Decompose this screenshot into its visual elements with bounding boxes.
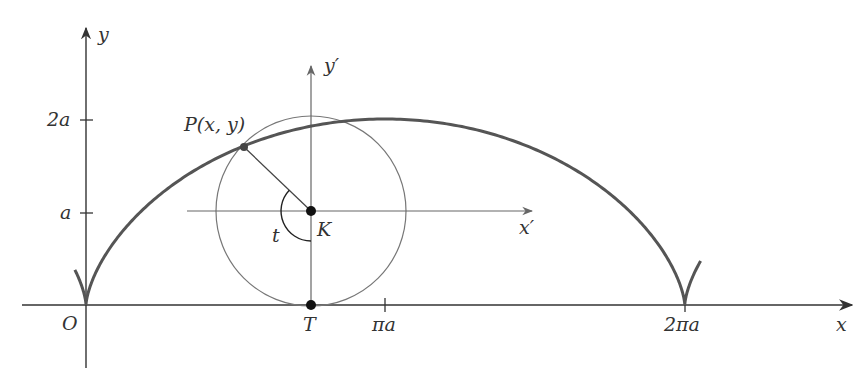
x-tick-label-2pia: 2πa bbox=[663, 313, 700, 335]
point-p bbox=[240, 143, 248, 151]
cycloid-curve bbox=[75, 119, 701, 305]
point-p-label: P(x, y) bbox=[183, 113, 245, 135]
angle-arc-t bbox=[281, 190, 311, 241]
radius-kp bbox=[244, 147, 311, 211]
y-axis-label: y bbox=[97, 23, 109, 45]
point-k bbox=[306, 206, 316, 216]
point-k-label: K bbox=[316, 218, 333, 240]
point-t-label: T bbox=[303, 313, 317, 335]
cycloid-diagram: y x O a 2a πa 2πa y′ x′ P(x, y) K T t bbox=[0, 0, 863, 376]
y-tick-label-a: a bbox=[60, 201, 71, 223]
local-y-label: y′ bbox=[323, 54, 340, 76]
x-axis-label: x bbox=[836, 313, 847, 335]
angle-label: t bbox=[272, 224, 280, 246]
origin-label: O bbox=[62, 312, 78, 334]
x-tick-label-pia: πa bbox=[371, 313, 396, 335]
point-t bbox=[306, 300, 316, 310]
y-tick-label-2a: 2a bbox=[46, 108, 70, 130]
local-x-label: x′ bbox=[519, 216, 535, 238]
